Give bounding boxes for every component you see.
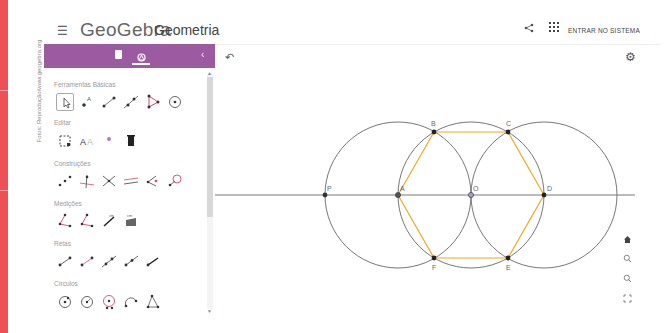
category-label-edit: Editar bbox=[54, 119, 71, 126]
angle-tool-icon[interactable] bbox=[56, 212, 74, 230]
label-b: B bbox=[431, 120, 436, 127]
circle-center-point-tool-icon[interactable] bbox=[56, 293, 74, 311]
label-a: A bbox=[400, 185, 405, 192]
red-margin-strip bbox=[0, 0, 8, 333]
tool-row-basic: A bbox=[54, 93, 204, 113]
collapse-panel-button[interactable]: ‹ bbox=[201, 49, 204, 60]
show-hide-tool-icon[interactable] bbox=[100, 132, 118, 150]
share-icon[interactable] bbox=[524, 23, 534, 35]
line-tool-icon[interactable] bbox=[122, 93, 140, 111]
ray-tool-icon[interactable] bbox=[122, 252, 140, 270]
label-e: E bbox=[506, 264, 511, 271]
scroll-down-arrow[interactable]: ▼ bbox=[207, 308, 212, 314]
category-label-lines: Retas bbox=[54, 240, 71, 247]
panel-tab-bar: ‹ bbox=[44, 44, 215, 68]
svg-text:cm²: cm² bbox=[127, 214, 134, 218]
delete-tool-icon[interactable] bbox=[122, 132, 140, 150]
label-f: F bbox=[432, 264, 436, 271]
select-tool-icon[interactable] bbox=[56, 132, 74, 150]
line-tool-icon[interactable] bbox=[100, 252, 118, 270]
tool-row-edit: AA bbox=[54, 132, 204, 152]
settings-gear-icon[interactable]: ⚙ bbox=[625, 50, 636, 64]
svg-text:A: A bbox=[87, 137, 93, 147]
label-o: O bbox=[473, 185, 479, 192]
segment-tool-icon[interactable] bbox=[56, 252, 74, 270]
tool-row-lines bbox=[54, 252, 204, 272]
compass-tool-icon[interactable] bbox=[100, 293, 118, 311]
scrollbar-thumb[interactable] bbox=[207, 77, 213, 217]
midpoint-tool-icon[interactable] bbox=[56, 172, 74, 190]
scroll-up-arrow[interactable]: ▲ bbox=[207, 70, 212, 76]
point-c[interactable] bbox=[506, 130, 511, 135]
circle-radius-tool-icon[interactable] bbox=[78, 293, 96, 311]
move-tool-icon[interactable] bbox=[56, 93, 74, 111]
photo-credit: Fotos: Reprodução/www.geogebra.org bbox=[31, 20, 43, 170]
perpendicular-tool-icon[interactable] bbox=[78, 172, 96, 190]
tool-row-circles bbox=[54, 293, 204, 313]
category-label-measurements: Medições bbox=[54, 200, 82, 207]
angle-given-size-tool-icon[interactable] bbox=[78, 212, 96, 230]
segment-tool-icon[interactable] bbox=[100, 93, 118, 111]
top-bar: ☰ GeoGebra Geometria ENTRAR NO SISTEMA bbox=[44, 0, 669, 44]
tool-row-constructions bbox=[54, 172, 204, 192]
point-e[interactable] bbox=[506, 256, 511, 261]
point-a[interactable] bbox=[395, 192, 400, 197]
svg-text:A: A bbox=[80, 137, 86, 147]
svg-text:A: A bbox=[87, 96, 91, 102]
circle-tool-icon[interactable] bbox=[166, 93, 184, 111]
point-o[interactable] bbox=[468, 192, 473, 197]
construction-drawing: P A O D B C F E bbox=[215, 45, 669, 333]
category-label-circles: Círculos bbox=[54, 280, 78, 287]
sign-in-button[interactable]: ENTRAR NO SISTEMA bbox=[568, 27, 640, 34]
undo-button[interactable]: ↶ bbox=[225, 51, 234, 64]
graphics-view[interactable]: P A O D B C F E ↶ ⚙ bbox=[215, 45, 669, 333]
tools-panel: ‹ ▲ ▼ Ferramentas Básicas A Editar AA Co… bbox=[44, 44, 215, 333]
distance-tool-icon[interactable]: cm bbox=[100, 212, 118, 230]
category-label-basic: Ferramentas Básicas bbox=[54, 81, 115, 88]
point-b[interactable] bbox=[432, 130, 437, 135]
active-tab-indicator bbox=[132, 63, 150, 65]
category-label-constructions: Construções bbox=[54, 160, 91, 167]
svg-text:cm: cm bbox=[109, 214, 114, 218]
segment-length-tool-icon[interactable] bbox=[78, 252, 96, 270]
apps-grid-icon[interactable] bbox=[549, 22, 559, 34]
point-f[interactable] bbox=[432, 256, 437, 261]
parallel-tool-icon[interactable] bbox=[122, 172, 140, 190]
label-d: D bbox=[547, 185, 552, 192]
circle-three-points-tool-icon[interactable] bbox=[144, 293, 162, 311]
tangents-tool-icon[interactable] bbox=[144, 172, 162, 190]
point-tool-icon[interactable]: A bbox=[78, 93, 96, 111]
locus-tool-icon[interactable] bbox=[166, 172, 184, 190]
polygon-tool-icon[interactable] bbox=[144, 93, 162, 111]
label-p: P bbox=[327, 185, 332, 192]
menu-button[interactable]: ☰ bbox=[57, 24, 68, 38]
area-tool-icon[interactable]: cm² bbox=[122, 212, 140, 230]
document-icon[interactable] bbox=[115, 50, 122, 59]
semicircle-tool-icon[interactable] bbox=[122, 293, 140, 311]
angle-bisector-tool-icon[interactable] bbox=[100, 172, 118, 190]
tool-row-measurements: cm cm² bbox=[54, 212, 204, 232]
label-c: C bbox=[506, 120, 511, 127]
app-title: Geometria bbox=[154, 22, 219, 38]
photo-credit-text: Fotos: Reprodução/www.geogebra.org bbox=[36, 21, 42, 161]
point-d[interactable] bbox=[542, 193, 547, 198]
tools-icon[interactable] bbox=[136, 49, 147, 60]
text-style-tool-icon[interactable]: AA bbox=[78, 132, 96, 150]
point-p[interactable] bbox=[323, 193, 328, 198]
vector-tool-icon[interactable] bbox=[144, 252, 162, 270]
